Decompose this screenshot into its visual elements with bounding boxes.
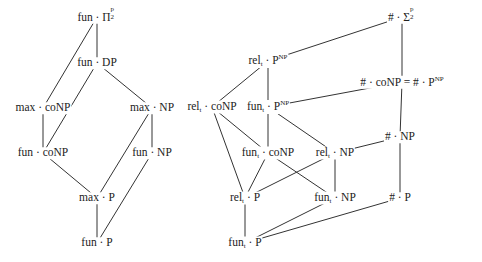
node-relt-p: relt · P bbox=[229, 192, 261, 205]
node-label: fun · NP bbox=[132, 146, 172, 158]
node-fun-pi2p: fun · Πp2 bbox=[76, 11, 117, 24]
label-prefix: rel bbox=[248, 54, 260, 66]
node-label: max · NP bbox=[130, 101, 174, 113]
node-fun-np: fun · NP bbox=[131, 147, 173, 159]
label-class: · P bbox=[246, 236, 262, 248]
node-label: # · coNP = # · P bbox=[360, 76, 434, 88]
edge-sharp_conp_eq-sharp_np bbox=[400, 82, 402, 137]
node-max-p: max · P bbox=[78, 192, 116, 204]
node-label: # · NP bbox=[385, 130, 415, 142]
node-relt-pnp: relt · PNP bbox=[247, 54, 288, 68]
node-label: fun · P bbox=[81, 236, 112, 248]
node-label: max · coNP bbox=[16, 101, 71, 113]
node-funt-pnp: funt · PNP bbox=[246, 100, 290, 114]
label-class: · NP bbox=[332, 191, 356, 203]
node-relt-np: relt · NP bbox=[315, 147, 355, 160]
node-max-conp: max · coNP bbox=[15, 102, 72, 114]
node-fun-dp: fun · DP bbox=[76, 57, 118, 69]
superscript: p bbox=[410, 6, 414, 13]
superscript: p bbox=[111, 6, 115, 13]
label-prefix: fun bbox=[247, 100, 262, 112]
node-funt-conp: funt · coNP bbox=[241, 147, 295, 160]
node-funt-p: funt · P bbox=[227, 237, 262, 250]
label-class: · coNP bbox=[201, 100, 236, 112]
label-class: · P bbox=[264, 100, 280, 112]
label-prefix: rel bbox=[316, 146, 328, 158]
node-sharp-conp-eq-sharp-pnp: # · coNP = # · PNP bbox=[359, 76, 444, 89]
superscript: NP bbox=[280, 99, 289, 107]
superscript: NP bbox=[279, 53, 288, 61]
label-prefix: fun bbox=[314, 191, 329, 203]
node-funt-np: funt · NP bbox=[313, 192, 357, 205]
superscript: NP bbox=[435, 75, 444, 83]
node-fun-conp: fun · coNP bbox=[17, 147, 69, 159]
node-sharp-np: # · NP bbox=[384, 131, 416, 143]
node-label: fun · DP bbox=[77, 56, 117, 68]
label-class: · P bbox=[263, 54, 279, 66]
label-class: · NP bbox=[330, 146, 354, 158]
supsub: p2 bbox=[410, 11, 416, 21]
node-label: fun · coNP bbox=[18, 146, 68, 158]
subscript: 2 bbox=[410, 14, 414, 21]
label-class: · P bbox=[244, 191, 260, 203]
label-prefix: fun bbox=[228, 236, 243, 248]
supsub: p2 bbox=[111, 11, 117, 21]
label-prefix: rel bbox=[230, 191, 242, 203]
subscript: 2 bbox=[111, 14, 115, 21]
node-label: fun · Π bbox=[77, 11, 110, 23]
node-label: # · P bbox=[389, 191, 411, 203]
node-max-np: max · NP bbox=[129, 102, 175, 114]
label-prefix: rel bbox=[187, 100, 199, 112]
node-fun-p: fun · P bbox=[80, 237, 113, 249]
node-relt-conp: relt · coNP bbox=[186, 101, 237, 114]
label-class: · coNP bbox=[259, 146, 294, 158]
node-label: max · P bbox=[79, 191, 115, 203]
node-sharp-p: # · P bbox=[388, 192, 412, 204]
node-label: # · Σ bbox=[388, 11, 410, 23]
node-sharp-sigma2p: # · Σp2 bbox=[387, 11, 417, 24]
label-prefix: fun bbox=[242, 146, 257, 158]
